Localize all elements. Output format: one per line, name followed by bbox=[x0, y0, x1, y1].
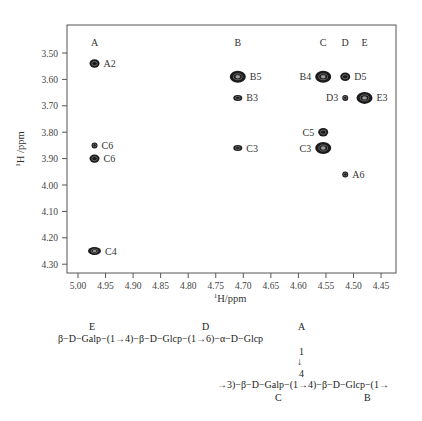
cross-peak: C3 bbox=[300, 142, 332, 154]
x-tick-label: 4.75 bbox=[207, 281, 224, 291]
cross-peak: E3 bbox=[357, 92, 388, 104]
y-axis: 3.503.603.703.803.904.004.104.204.30 bbox=[41, 49, 67, 270]
residue-label-e: E bbox=[89, 322, 95, 332]
cross-peak: C6 bbox=[90, 153, 116, 164]
cross-peak: A2 bbox=[90, 58, 116, 69]
residue-label-a: A bbox=[298, 322, 305, 332]
y-tick-label: 4.30 bbox=[41, 260, 58, 270]
x-tick-label: 4.60 bbox=[290, 281, 307, 291]
peak-label: D3 bbox=[326, 92, 338, 103]
residue-label-c: C bbox=[275, 393, 282, 403]
x-tick-label: 4.45 bbox=[373, 281, 390, 291]
peak-label: C4 bbox=[105, 246, 117, 257]
peak-label: C6 bbox=[104, 153, 116, 164]
scheme-backbone-chain: →3)−β−D−Galp−(1→4)−β−D−Glcp−(1→ bbox=[217, 380, 389, 390]
peak-label: A2 bbox=[104, 58, 116, 69]
column-label: C bbox=[320, 37, 327, 48]
x-tick-label: 4.65 bbox=[263, 281, 280, 291]
residue-label-d: D bbox=[202, 322, 209, 332]
peak-label: D5 bbox=[354, 71, 366, 82]
y-tick-label: 3.90 bbox=[41, 154, 58, 164]
x-tick-label: 4.50 bbox=[345, 281, 362, 291]
x-tick-label: 4.70 bbox=[235, 281, 252, 291]
peak-label: C3 bbox=[246, 143, 258, 154]
peak-label: B5 bbox=[250, 71, 262, 82]
x-tick-label: 4.80 bbox=[180, 281, 197, 291]
residue-column-labels: ABCDE bbox=[91, 37, 368, 48]
y-tick-label: 3.80 bbox=[41, 128, 58, 138]
residue-label-b: B bbox=[364, 393, 371, 403]
column-label: E bbox=[361, 37, 367, 48]
peak-label: B4 bbox=[300, 71, 312, 82]
plot-frame bbox=[67, 25, 396, 273]
column-label: D bbox=[342, 37, 349, 48]
y-axis-title: 1H /ppm bbox=[14, 131, 26, 166]
cross-peak: C6 bbox=[92, 140, 114, 151]
scheme-branch-chain: β−D−Galp−(1→4)−β−D−Glcp−(1→6)−α−D−Glcp bbox=[58, 334, 263, 344]
x-tick-label: 4.85 bbox=[152, 281, 169, 291]
y-tick-label: 3.50 bbox=[41, 49, 58, 59]
cross-peak: B5 bbox=[230, 71, 262, 83]
peak-label: B3 bbox=[246, 92, 258, 103]
nmr-spectrum-chart: 3.503.603.703.803.904.004.104.204.30 5.0… bbox=[0, 0, 422, 310]
cross-peak: B4 bbox=[300, 71, 332, 83]
peak-label: E3 bbox=[377, 92, 388, 103]
x-tick-label: 4.95 bbox=[97, 281, 114, 291]
peak-label: C6 bbox=[102, 140, 114, 151]
peak-label: C5 bbox=[303, 127, 315, 138]
cross-peak: D5 bbox=[340, 71, 366, 82]
y-tick-label: 4.10 bbox=[41, 207, 58, 217]
cross-peak: D3 bbox=[326, 92, 348, 103]
cross-peak: C5 bbox=[303, 127, 329, 138]
column-label: A bbox=[91, 37, 99, 48]
x-tick-label: 4.90 bbox=[125, 281, 142, 291]
x-tick-label: 4.55 bbox=[318, 281, 335, 291]
column-label: B bbox=[234, 37, 241, 48]
y-tick-label: 3.70 bbox=[41, 101, 58, 111]
cross-peaks: A2C6C6C4B5B3C3B4D5D3E3C5C3A6 bbox=[88, 58, 388, 256]
x-axis: 5.004.954.904.854.804.754.704.654.604.55… bbox=[70, 273, 390, 291]
link-arrow: ↓ bbox=[297, 357, 302, 367]
link-position-4: 4 bbox=[299, 369, 304, 379]
cross-peak: C3 bbox=[233, 143, 258, 154]
x-axis-title: 1H/ppm bbox=[214, 292, 247, 304]
cross-peak: B3 bbox=[233, 92, 258, 103]
cross-peak: A6 bbox=[342, 169, 364, 180]
y-tick-label: 4.00 bbox=[41, 181, 58, 191]
x-tick-label: 5.00 bbox=[70, 281, 87, 291]
peak-label: A6 bbox=[352, 169, 364, 180]
peak-label: C3 bbox=[300, 143, 312, 154]
cross-peak: C4 bbox=[88, 246, 117, 257]
y-tick-label: 4.20 bbox=[41, 233, 58, 243]
y-tick-label: 3.60 bbox=[41, 75, 58, 85]
